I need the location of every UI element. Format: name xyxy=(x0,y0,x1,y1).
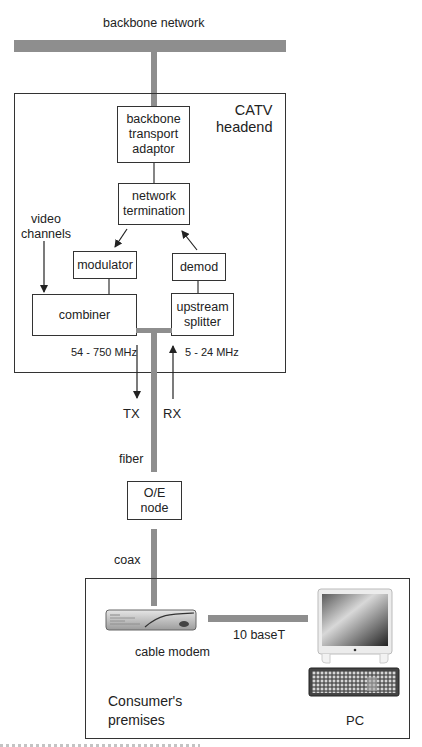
pc-label: PC xyxy=(346,713,364,728)
premises-line1: Consumer's xyxy=(108,692,182,711)
clipped-caption xyxy=(0,742,200,747)
premises-line2: premises xyxy=(108,711,182,730)
premises-label: Consumer's premises xyxy=(108,692,182,730)
keyboard-icon xyxy=(0,0,422,747)
